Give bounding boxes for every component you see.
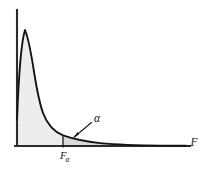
alpha-leader-arrowhead: [73, 132, 80, 138]
critical-value-subscript: α: [66, 155, 70, 164]
shaded-body-region: [17, 30, 63, 146]
tail-area-label: α: [94, 112, 101, 124]
x-axis-label: F: [189, 136, 198, 148]
figure-canvas: F α F α: [0, 0, 209, 171]
f-distribution-figure: F α F α: [0, 0, 209, 171]
